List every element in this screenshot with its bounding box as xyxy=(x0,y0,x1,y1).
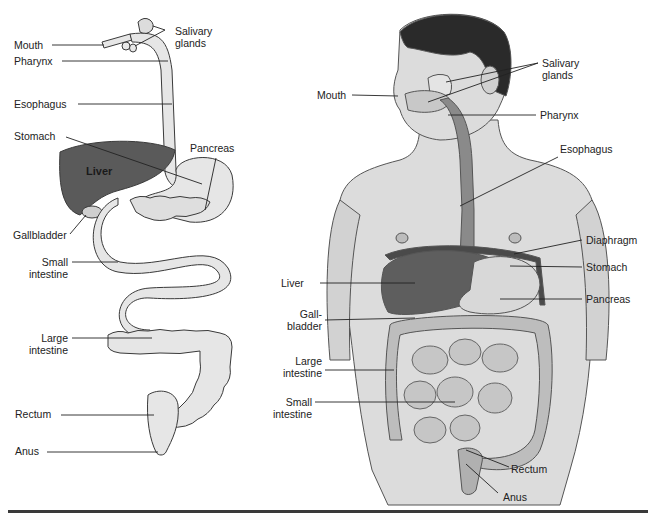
left-label-rectum: Rectum xyxy=(15,408,51,420)
right-label-pharynx: Pharynx xyxy=(540,109,579,121)
left-label-small-intestine: Small intestine xyxy=(26,256,68,280)
right-label-pancreas: Pancreas xyxy=(586,293,630,305)
left-label-pharynx: Pharynx xyxy=(14,55,53,67)
left-label-mouth: Mouth xyxy=(14,39,43,51)
right-label-esophagus: Esophagus xyxy=(560,143,613,155)
left-label-anus: Anus xyxy=(15,445,39,457)
left-label-large-intestine: Large intestine xyxy=(26,332,68,356)
right-label-mouth: Mouth xyxy=(317,89,346,101)
left-label-pancreas: Pancreas xyxy=(190,142,234,154)
left-schematic xyxy=(47,18,233,455)
left-leader-lines xyxy=(47,26,216,452)
left-label-salivary-glands: Salivary glands xyxy=(175,25,212,49)
right-label-small-intestine: Small intestine xyxy=(262,396,312,420)
left-label-liver: Liver xyxy=(86,165,112,177)
right-torso xyxy=(315,14,609,505)
right-label-liver: Liver xyxy=(281,277,304,289)
right-label-large-intestine: Large intestine xyxy=(262,355,322,379)
right-label-stomach: Stomach xyxy=(586,261,627,273)
left-label-gallbladder: Gallbladder xyxy=(13,229,67,241)
left-label-stomach: Stomach xyxy=(14,130,55,142)
left-label-esophagus: Esophagus xyxy=(14,98,67,110)
digestive-system-figure: Mouth Salivary glands Pharynx Esophagus … xyxy=(0,0,650,518)
right-label-gallbladder: Gall- bladder xyxy=(272,308,322,332)
right-label-salivary-glands: Salivary glands xyxy=(542,57,579,81)
left-rectum xyxy=(147,391,178,455)
right-label-rectum: Rectum xyxy=(511,463,547,475)
bottom-rule xyxy=(8,510,648,513)
right-label-diaphragm: Diaphragm xyxy=(586,234,637,246)
right-label-anus: Anus xyxy=(503,491,527,503)
